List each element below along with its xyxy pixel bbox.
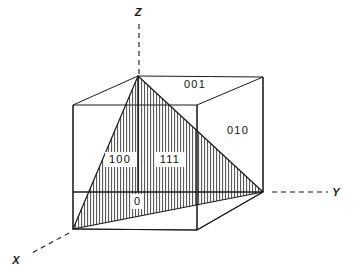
y-axis-label: Y [332,186,341,198]
origin-group: 0 [131,194,143,209]
edge-top-front [138,76,263,77]
plane-111-group: 111 [155,152,185,167]
z-axis-label: Z [134,6,143,18]
plane-001-group: 001 [180,77,212,92]
figure-canvas: Z Y X 001 010 100 111 0 [0,0,353,279]
x-axis-label: X [11,254,20,266]
miller-indices-figure: Z Y X 001 010 100 111 0 [0,0,353,279]
plane-100-group: 100 [105,152,137,167]
origin-label: 0 [134,195,140,207]
plane-001-label: 001 [184,78,206,90]
plane-111-label: 111 [160,153,180,165]
plane-010-group: 010 [223,123,255,138]
plane-100-label: 100 [109,153,131,165]
plane-010-label: 010 [227,124,249,136]
edge-bottom-front-2 [73,229,197,230]
x-axis-line [30,233,69,254]
